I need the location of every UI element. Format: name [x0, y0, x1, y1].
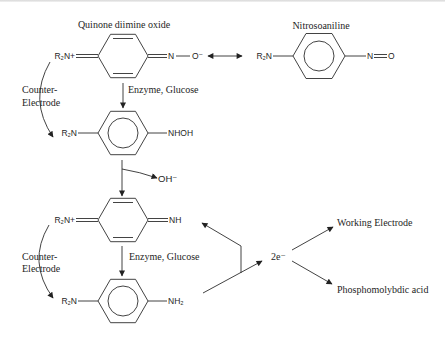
counter-electrode-label-line1: Counter-	[22, 84, 57, 95]
benzene-ring	[293, 34, 345, 79]
hydroxylamine-molecule: R₂N NHOH	[61, 111, 193, 154]
left-group-label: R₂N	[61, 296, 77, 306]
left-group-label: R₂N	[256, 51, 272, 61]
right-group-label: NH	[169, 215, 181, 225]
counter-electrode-label-line2: Electrode	[22, 97, 61, 108]
hydroxide-label: OH⁻	[158, 173, 177, 184]
left-group-label: R₂N+	[54, 215, 75, 225]
counter-electrode-label-line1: Counter-	[22, 251, 57, 262]
nitrogen-label: N	[367, 51, 373, 61]
left-group-label: R₂N+	[54, 51, 75, 61]
reagent-label: Enzyme, Glucose	[128, 84, 199, 95]
working-electrode-label: Working Electrode	[337, 217, 413, 228]
quinone-diimine-molecule: R₂N+ NH	[54, 198, 181, 241]
electron-release-arrow	[203, 261, 262, 293]
aromatic-circle	[108, 286, 138, 316]
left-group-label: R₂N	[61, 128, 77, 138]
electrons-label: 2e⁻	[271, 251, 286, 262]
oxygen-label: O	[388, 51, 395, 61]
quinoid-ring	[98, 198, 148, 241]
quinoid-ring	[98, 34, 148, 77]
quinone-diimine-oxide-molecule: R₂N+ N O⁻	[54, 34, 203, 77]
to-phosphomolybdic-acid-arrow	[292, 261, 332, 284]
nitrosoaniline-title: Nitrosoaniline	[292, 20, 350, 31]
byproduct-arrow	[122, 169, 157, 178]
regeneration-arrow	[202, 223, 241, 273]
nitrosoaniline-molecule: R₂N N O	[256, 34, 395, 79]
reagent-label: Enzyme, Glucose	[129, 251, 200, 262]
aromatic-circle	[108, 118, 138, 148]
right-group-label: NHOH	[168, 128, 193, 138]
aromatic-circle	[304, 41, 334, 71]
counter-electrode-label-line2: Electrode	[22, 263, 61, 274]
right-group-label: NH₂	[168, 296, 184, 306]
quinone-diimine-oxide-title: Quinone diimine oxide	[78, 19, 171, 30]
oxide-label: O⁻	[192, 51, 203, 61]
phosphomolybdic-acid-label: Phosphomolybdic acid	[337, 284, 428, 295]
nitrogen-label: N	[168, 51, 174, 61]
reaction-scheme: Quinone diimine oxide R₂N+ N O⁻ Nitrosoa…	[0, 0, 445, 343]
to-working-electrode-arrow	[292, 227, 333, 250]
phenylenediamine-molecule: R₂N NH₂	[61, 279, 183, 322]
